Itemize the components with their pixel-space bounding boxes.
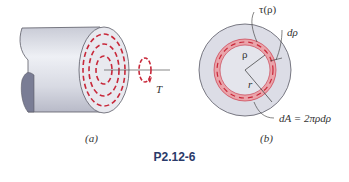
area-label: dA = 2πρdρ bbox=[279, 112, 331, 124]
shear-label: τ(ρ) bbox=[259, 3, 276, 15]
panel-a-label: (a) bbox=[85, 132, 98, 144]
r-label: r bbox=[248, 78, 252, 90]
shaft-diagram bbox=[20, 27, 170, 113]
drho-label: dρ bbox=[287, 26, 298, 38]
figure-caption: P2.12-6 bbox=[0, 150, 349, 164]
panel-b-label: (b) bbox=[260, 132, 273, 144]
hollow-end bbox=[21, 73, 34, 112]
rho-label: ρ bbox=[242, 48, 248, 60]
cross-section-diagram bbox=[199, 12, 291, 118]
torque-label: T bbox=[156, 83, 162, 95]
